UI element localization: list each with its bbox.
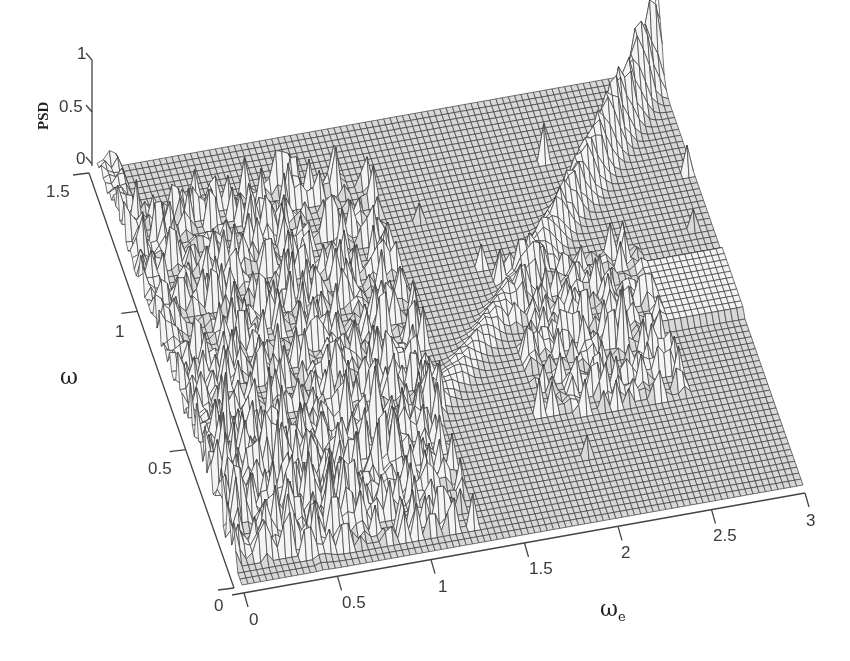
x-tick-2: 2 xyxy=(621,544,630,561)
x-axis-title-sub: e xyxy=(618,609,626,624)
x-axis-title-main: ω xyxy=(600,596,618,621)
z-axis-title: PSD xyxy=(36,102,51,130)
z-tick-1: 1 xyxy=(77,45,86,62)
y-axis-title: ω xyxy=(60,366,78,388)
x-axis-title: ωe xyxy=(600,598,626,623)
z-tick-0-5: 0.5 xyxy=(59,98,83,115)
x-tick-0: 0 xyxy=(249,611,258,628)
y-tick-0-5: 0.5 xyxy=(148,460,172,477)
x-tick-0-5: 0.5 xyxy=(342,594,366,611)
y-tick-1: 1 xyxy=(115,323,124,340)
surface-plot xyxy=(0,0,850,661)
x-tick-1: 1 xyxy=(438,578,447,595)
y-tick-1-5: 1.5 xyxy=(46,183,70,200)
z-tick-0: 0 xyxy=(76,150,85,167)
x-tick-3: 3 xyxy=(806,512,815,529)
y-tick-0: 0 xyxy=(214,597,223,614)
x-tick-1-5: 1.5 xyxy=(529,560,553,577)
x-tick-2-5: 2.5 xyxy=(713,527,737,544)
